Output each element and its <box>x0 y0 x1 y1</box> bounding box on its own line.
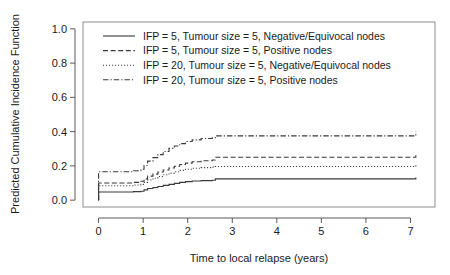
cumulative-incidence-chart: 0.00.20.40.60.81.0 01234567 IFP = 5, Tum… <box>0 0 450 275</box>
chart-figure: 0.00.20.40.60.81.0 01234567 IFP = 5, Tum… <box>0 0 450 275</box>
x-tick-label: 1 <box>140 225 146 237</box>
x-tick-label: 7 <box>407 225 413 237</box>
legend-label-1: IFP = 5, Tumour size = 5, Positive nodes <box>143 44 332 56</box>
x-axis: 01234567 <box>96 218 414 237</box>
y-axis: 0.00.20.40.60.81.0 <box>52 23 75 206</box>
series-line-2 <box>99 164 416 200</box>
y-tick-label: 0.2 <box>52 160 67 172</box>
x-tick-label: 4 <box>274 225 280 237</box>
y-tick-label: 0.4 <box>52 126 67 138</box>
y-tick-label: 0.8 <box>52 57 67 69</box>
y-tick-label: 1.0 <box>52 23 67 35</box>
y-tick-label: 0.6 <box>52 91 67 103</box>
y-tick-label: 0.0 <box>52 194 67 206</box>
legend-label-3: IFP = 20, Tumour size = 5, Positive node… <box>143 74 338 86</box>
y-axis-title: Predicted Cumulative Incidence Function <box>9 14 21 214</box>
x-tick-label: 3 <box>229 225 235 237</box>
x-axis-title: Time to local relapse (years) <box>190 252 328 264</box>
chart-series-group <box>99 132 416 201</box>
series-line-1 <box>99 154 416 200</box>
legend-label-2: IFP = 20, Tumour size = 5, Negative/Equi… <box>143 59 391 71</box>
legend-label-0: IFP = 5, Tumour size = 5, Negative/Equiv… <box>143 30 385 42</box>
x-tick-label: 5 <box>318 225 324 237</box>
x-tick-label: 6 <box>363 225 369 237</box>
series-line-0 <box>99 178 416 201</box>
x-tick-label: 2 <box>185 225 191 237</box>
x-tick-label: 0 <box>96 225 102 237</box>
chart-legend: IFP = 5, Tumour size = 5, Negative/Equiv… <box>103 30 391 86</box>
